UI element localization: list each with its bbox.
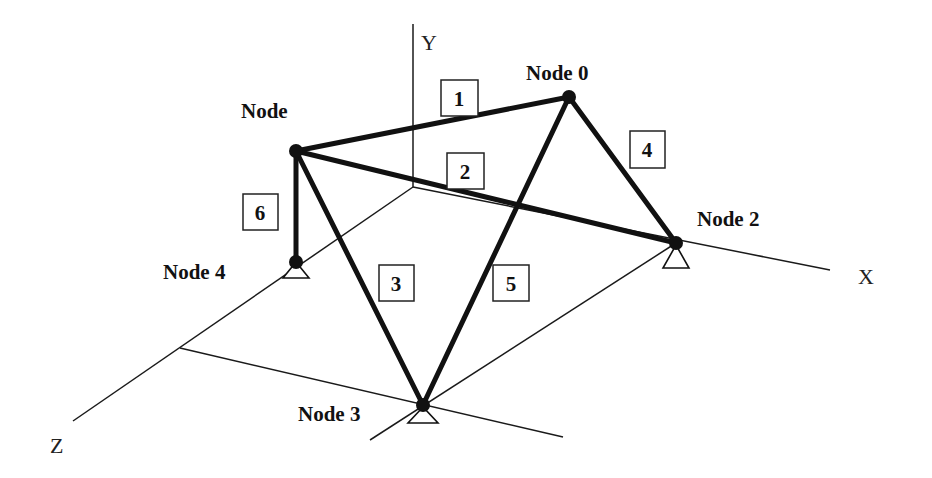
member-4-label: 4 (642, 138, 653, 162)
node-3-label: Node 3 (298, 402, 360, 426)
node-0-label: Node 0 (526, 61, 588, 85)
node-1-label: Node (241, 99, 288, 123)
member-5-label: 5 (506, 272, 517, 296)
member-2-label: 2 (460, 160, 471, 184)
member-1 (296, 97, 569, 151)
y-axis-label: Y (421, 30, 437, 55)
x-axis-label: X (858, 264, 874, 289)
ground-line-x-parallel (180, 348, 563, 437)
node-3-dot (416, 398, 430, 412)
member-1-label: 1 (454, 87, 465, 111)
truss-diagram: Y X Z Node 0 Node Node 2 Node 3 Node 4 1 (0, 0, 932, 478)
node-0-dot (562, 90, 576, 104)
node-2-dot (669, 236, 683, 250)
node-2-label: Node 2 (697, 207, 759, 231)
node-4-dot (289, 255, 303, 269)
z-axis-label: Z (50, 433, 63, 458)
node-1-dot (289, 144, 303, 158)
member-6-label: 6 (255, 201, 266, 225)
members (296, 97, 676, 405)
member-3-label: 3 (391, 272, 402, 296)
node-4-label: Node 4 (163, 260, 226, 284)
